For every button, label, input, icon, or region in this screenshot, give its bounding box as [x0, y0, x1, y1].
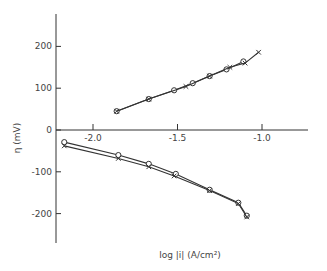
series-line: [117, 52, 259, 111]
series-line: [64, 142, 247, 216]
x-axis-label: log |i| (A/cm²): [159, 250, 221, 260]
y-axis-label: η (mV): [12, 123, 22, 154]
x-tick-label: -1.5: [169, 133, 187, 143]
tafel-plot: -2.0-1.5-1.02001000-100-200 log |i| (A/c…: [0, 0, 327, 271]
y-tick-label: 0: [46, 125, 52, 135]
series-line: [64, 146, 247, 217]
x-tick-label: -2.0: [84, 133, 102, 143]
axes: [56, 14, 308, 243]
circle-marker: [146, 161, 151, 166]
y-tick-label: -200: [32, 209, 53, 219]
x-tick-label: -1.0: [253, 133, 271, 143]
x-marker: [256, 50, 261, 55]
y-tick-label: 100: [35, 83, 52, 93]
y-tick-label: -100: [32, 167, 53, 177]
y-tick-label: 200: [35, 41, 52, 51]
